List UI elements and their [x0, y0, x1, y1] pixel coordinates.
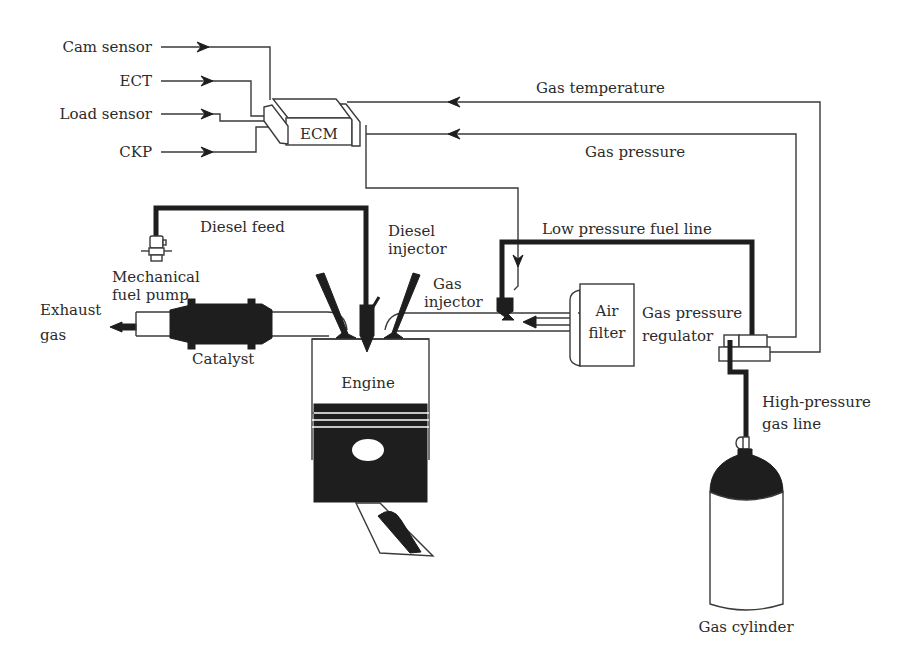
cylinder-body [710, 492, 783, 610]
label-gas-temperature: Gas temperature [536, 79, 665, 97]
dual-fuel-system-diagram: Cam sensor ECT Load sensor CKP ECM Gas t… [0, 0, 912, 664]
label-gas-cylinder: Gas cylinder [698, 618, 794, 636]
air-flow-arrow-icon [523, 316, 536, 328]
label-mechanical-pump-2: fuel pump [112, 286, 189, 304]
label-mechanical-pump-1: Mechanical [112, 268, 200, 286]
label-diesel-injector-2: injector [388, 240, 447, 258]
label-high-pressure-2: gas line [762, 415, 821, 433]
label-air-filter-1: Air [595, 302, 620, 320]
label-ect: ECT [120, 72, 152, 90]
exhaust-system: Exhaust gas Catalyst [40, 299, 347, 368]
label-gas-injector-1: Gas [433, 275, 462, 293]
exhaust-valve-icon [316, 273, 356, 338]
label-low-pressure: Low pressure fuel line [542, 220, 712, 238]
label-cam-sensor: Cam sensor [62, 38, 152, 56]
label-exhaust-1: Exhaust [40, 301, 101, 319]
engine: Engine [312, 273, 433, 556]
catalyst-icon [170, 304, 272, 344]
cam-sensor-wire [161, 47, 270, 100]
label-high-pressure-1: High-pressure [762, 393, 871, 411]
diesel-injector-icon [360, 305, 374, 335]
sensor-inputs: Cam sensor ECT Load sensor CKP [60, 38, 270, 161]
label-regulator-1: Gas pressure [642, 304, 742, 322]
label-diesel-feed: Diesel feed [200, 218, 285, 236]
intake-valve-icon [384, 273, 420, 338]
cylinder-cap-icon [710, 449, 783, 500]
intake-system [385, 313, 578, 331]
air-filter: Air filter [570, 284, 634, 366]
label-air-filter-2: filter [589, 324, 627, 342]
ecm-label: ECM [300, 125, 338, 143]
ecm-unit: ECM [264, 99, 360, 146]
label-ckp: CKP [119, 143, 152, 161]
label-regulator-2: regulator [642, 327, 714, 345]
mechanical-fuel-pump: Mechanical fuel pump [112, 236, 200, 304]
label-exhaust-2: gas [40, 326, 66, 344]
ect-wire [161, 81, 267, 116]
gas-injector-icon [497, 298, 513, 311]
gas-cylinder: Gas cylinder [698, 437, 794, 636]
gas-injector-control-wire [366, 125, 518, 290]
regulator-body [719, 347, 770, 361]
label-diesel-injector-1: Diesel [388, 222, 435, 240]
label-gas-injector-2: injector [424, 293, 483, 311]
load-sensor-wire [161, 114, 270, 121]
label-load-sensor: Load sensor [60, 105, 153, 123]
label-gas-pressure: Gas pressure [585, 143, 685, 161]
label-catalyst: Catalyst [192, 350, 254, 368]
ckp-wire [161, 127, 268, 152]
label-engine: Engine [341, 374, 395, 392]
